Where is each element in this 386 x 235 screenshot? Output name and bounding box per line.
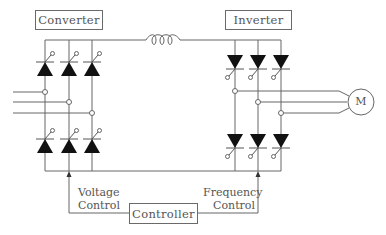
frequency-control-label: Frequency Control	[203, 186, 255, 212]
frequency-control-arrow	[256, 171, 261, 177]
inverter-label: Inverter	[225, 10, 292, 30]
voltage-control-line1: Voltage	[78, 186, 118, 199]
vfd-circuit-diagram	[0, 0, 386, 235]
frequency-control-line2: Control	[203, 199, 255, 212]
voltage-control-label: Voltage Control	[78, 186, 118, 212]
voltage-control-arrow	[67, 171, 72, 177]
frequency-control-line1: Frequency	[203, 186, 255, 199]
motor-label: M	[353, 95, 369, 108]
controller-box: Controller	[129, 203, 198, 224]
voltage-control-line2: Control	[78, 199, 118, 212]
converter-label: Converter	[35, 10, 103, 30]
